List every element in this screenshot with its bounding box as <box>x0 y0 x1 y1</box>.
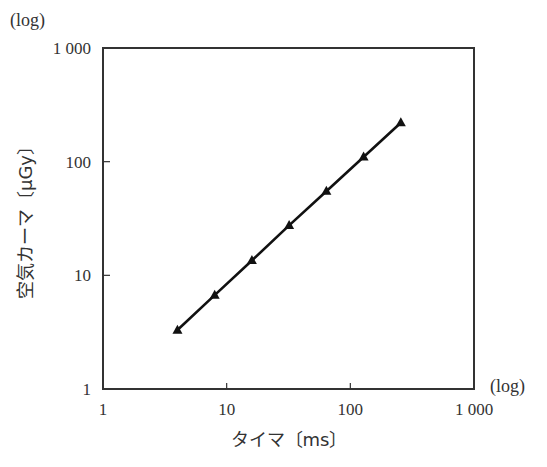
y-axis-tick-labels: 1101001 000 <box>53 39 91 399</box>
log-log-chart: 1101001 000 1101001 000 (log) (log) タイマ〔… <box>0 0 547 467</box>
x-axis-tick-labels: 1101001 000 <box>99 400 493 419</box>
x-axis-title: タイマ〔ms〕 <box>231 429 348 450</box>
x-tick-label: 1 <box>99 400 108 419</box>
x-tick-label: 10 <box>218 400 235 419</box>
x-axis-log-note: (log) <box>490 376 525 397</box>
data-series <box>172 117 405 333</box>
axis-ticks <box>103 162 350 389</box>
triangle-marker <box>396 117 406 126</box>
y-tick-label: 1 <box>83 380 92 399</box>
y-axis-log-note: (log) <box>10 10 45 31</box>
y-tick-label: 100 <box>66 153 92 172</box>
plot-area-frame <box>103 48 474 389</box>
x-tick-label: 1 000 <box>455 400 493 419</box>
plot-border <box>103 48 474 389</box>
y-tick-label: 1 000 <box>53 39 91 58</box>
y-axis-title: 空気カーマ〔μGy〕 <box>15 137 36 299</box>
y-tick-label: 10 <box>74 266 91 285</box>
x-tick-label: 100 <box>338 400 364 419</box>
